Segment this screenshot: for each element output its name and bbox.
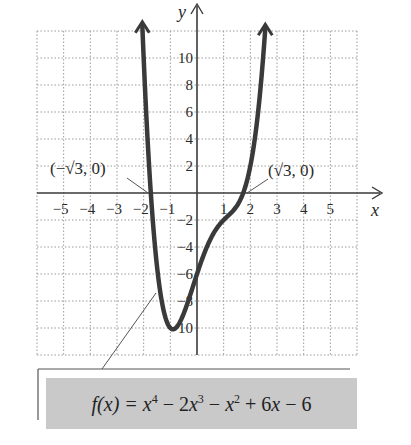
formula-callout-line [102,293,156,369]
x-tick-label: 2 [247,201,255,217]
formula-operator: + 6 [240,392,271,414]
x-tick-label: 4 [300,201,308,217]
x-axis-label: x [370,200,379,220]
x-tick-label: 3 [273,201,281,217]
x-tick-label: 5 [327,201,335,217]
formula-operator: − 2 [158,392,189,414]
formula-box: f(x) = x4 − 2x3 − x2 + 6x − 6 [46,378,357,429]
formula-lhs: f(x) = [92,392,143,414]
y-tick-label: 4 [186,131,194,147]
y-tick-label: 8 [186,77,194,93]
formula-term: x [189,392,198,414]
y-tick-label: 10 [178,50,193,66]
x-tick-label: −4 [79,201,95,217]
y-tick-label: −6 [177,266,193,282]
function-formula: f(x) = x4 − 2x3 − x2 + 6x − 6 [92,392,312,416]
right-intercept-label: (√3, 0) [268,161,314,180]
x-tick-label: −1 [159,201,175,217]
x-tick-label: −3 [106,201,122,217]
left-intercept-label: (−√3, 0) [50,159,106,178]
x-tick-label: −5 [53,201,69,217]
left-intercept-leader [127,178,148,193]
y-tick-label: 2 [186,158,194,174]
formula-operator: − [204,392,225,414]
y-tick-label: 6 [186,104,194,120]
y-tick-label: −2 [177,212,193,228]
function-curve [142,26,265,330]
formula-operator: − 6 [280,392,311,414]
formula-term: x [225,392,234,414]
y-tick-label: −4 [177,239,193,255]
formula-term: x [271,392,280,414]
y-axis-label: y [176,2,186,22]
x-tick-label: −2 [133,201,149,217]
formula-term: x [143,392,152,414]
